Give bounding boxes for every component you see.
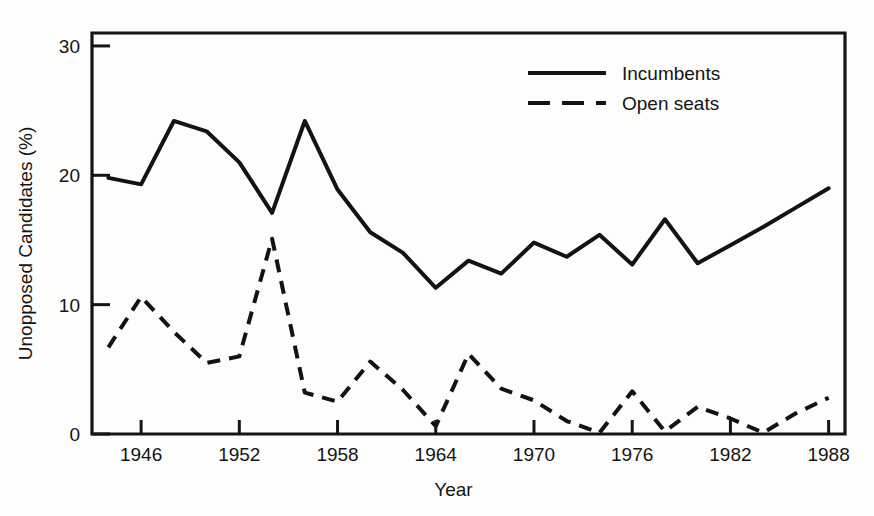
y-axis-tick-label: 20 bbox=[59, 165, 80, 186]
y-axis-title: Unopposed Candidates (%) bbox=[15, 127, 36, 360]
x-axis-tick-label: 1958 bbox=[316, 444, 358, 465]
x-axis-tick-label: 1982 bbox=[709, 444, 751, 465]
x-axis-tick-label: 1976 bbox=[611, 444, 653, 465]
figure-container: 010203019461952195819641970197619821988Y… bbox=[0, 0, 874, 516]
y-axis-tick-label: 0 bbox=[69, 424, 80, 445]
series-line-incumbents bbox=[108, 121, 828, 288]
axis-frame bbox=[92, 33, 845, 434]
x-axis-title: Year bbox=[434, 479, 473, 500]
x-axis-tick-label: 1970 bbox=[513, 444, 555, 465]
x-axis-tick-label: 1952 bbox=[218, 444, 260, 465]
y-axis-tick-label: 10 bbox=[59, 295, 80, 316]
x-axis-tick-label: 1964 bbox=[415, 444, 458, 465]
line-chart: 010203019461952195819641970197619821988Y… bbox=[0, 0, 874, 516]
legend-label-incumbents: Incumbents bbox=[622, 63, 720, 84]
legend-label-open-seats: Open seats bbox=[622, 93, 719, 114]
x-axis-tick-label: 1988 bbox=[807, 444, 849, 465]
y-axis-tick-label: 30 bbox=[59, 36, 80, 57]
x-axis-tick-label: 1946 bbox=[120, 444, 162, 465]
series-line-open-seats bbox=[108, 239, 828, 433]
